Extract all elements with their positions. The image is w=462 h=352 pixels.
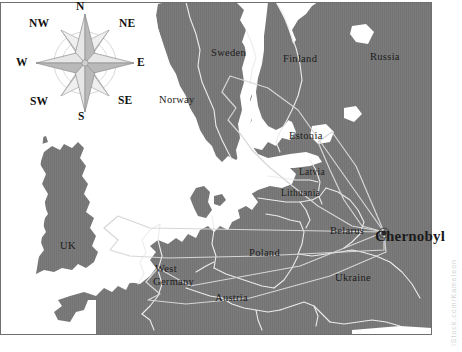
compass-hub [82,60,88,66]
map-label-uk: UK [60,241,76,252]
compass-label-sw: SW [30,95,48,107]
stock-watermark: iStock.com/Kameleon [450,259,457,346]
map-label-latvia: Latvia [299,168,325,178]
map-label-norway: Norway [159,95,195,106]
map-label-ukraine: Ukraine [335,273,371,284]
compass-label-w: W [16,56,28,68]
map-label-germany: Germany [153,277,194,288]
compass-label-e: E [137,56,145,68]
map-label-finland: Finland [283,54,317,65]
map-label-russia: Russia [370,52,400,63]
compass-label-se: SE [118,94,132,106]
map-label-estonia: Estonia [289,131,323,142]
map-label-sweden: Sweden [211,48,246,59]
compass-label-nw: NW [29,17,49,29]
compass-rose: N NE E SE S SW W NW [18,2,152,124]
map-label-chernobyl: Chernobyl [375,229,445,244]
map-label-lithuania: Lithuania [281,189,320,199]
compass-label-n: N [76,0,85,12]
map-label-poland: Poland [249,248,280,259]
compass-label-s: S [78,110,85,122]
map-label-belarus: Belarus [330,226,364,237]
map-label-west: West [155,264,177,275]
map-label-austria: Austria [215,293,248,304]
compass-label-ne: NE [119,17,135,29]
map-figure: N NE E SE S SW W NW Norway Sweden Finlan… [0,0,462,352]
